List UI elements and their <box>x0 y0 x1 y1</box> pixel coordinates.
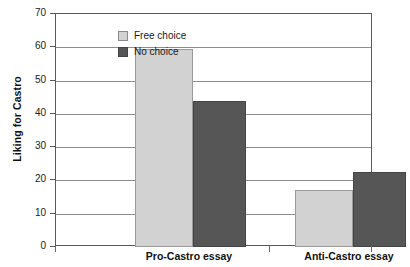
gridline <box>56 81 371 82</box>
x-axis-label-pro-castro-essay: Pro-Castro essay <box>109 250 269 262</box>
legend-label-free-choice: Free choice <box>134 30 186 41</box>
y-axis-tick-label: 0 <box>0 240 46 251</box>
legend-swatch-free-choice-icon <box>118 31 128 41</box>
legend-label-no-choice: No choice <box>134 46 178 57</box>
y-axis-tick-label: 60 <box>0 40 46 51</box>
legend-item-free-choice[interactable]: Free choice <box>118 30 186 41</box>
bar-no-choice-pro-castro <box>193 101 246 247</box>
y-axis-title: Liking for Castro <box>11 44 23 194</box>
legend-item-no-choice[interactable]: No choice <box>118 46 186 57</box>
x-axis-label-anti-castro-essay: Anti-Castro essay <box>269 250 410 262</box>
gridline <box>56 47 371 48</box>
y-axis-tick-label: 30 <box>0 140 46 151</box>
bar-no-choice-anti-castro <box>353 172 406 247</box>
y-axis-tick-label: 70 <box>0 7 46 18</box>
x-axis-tick <box>55 246 56 252</box>
y-axis-tick-label: 10 <box>0 207 46 218</box>
legend-swatch-no-choice-icon <box>118 47 128 57</box>
legend: Free choice No choice <box>118 30 186 57</box>
x-axis-tick <box>269 246 270 252</box>
y-axis-tick-label: 20 <box>0 173 46 184</box>
y-axis-tick-label: 50 <box>0 74 46 85</box>
y-axis-tick-label: 40 <box>0 107 46 118</box>
x-axis-tick <box>371 246 372 252</box>
plot-area: Free choice No choice <box>55 13 372 246</box>
bar-free-choice-anti-castro <box>295 190 353 247</box>
bar-free-choice-pro-castro <box>135 49 193 247</box>
